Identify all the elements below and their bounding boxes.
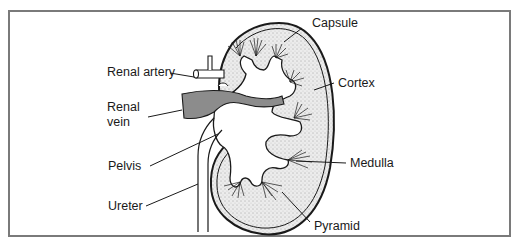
label-renal-vein-line1: Renal xyxy=(107,100,140,114)
label-pelvis: Pelvis xyxy=(108,159,141,173)
label-cortex: Cortex xyxy=(338,76,375,90)
leader-ureter xyxy=(146,184,198,206)
label-pyramid: Pyramid xyxy=(314,219,360,233)
label-ureter: Ureter xyxy=(108,199,143,213)
label-renal-vein-line2: vein xyxy=(107,115,130,129)
kidney-diagram xyxy=(0,0,522,244)
label-medulla: Medulla xyxy=(350,156,394,170)
leader-renal-vein xyxy=(148,110,182,117)
label-renal-artery: Renal artery xyxy=(107,65,175,79)
label-capsule: Capsule xyxy=(312,16,358,30)
